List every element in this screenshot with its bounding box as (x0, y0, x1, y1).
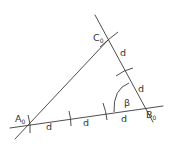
label-b0: B0 (146, 109, 157, 121)
label-side-d-1: d (120, 47, 126, 58)
label-a0: A0 (15, 113, 26, 125)
label-beta: β (124, 97, 130, 108)
label-base-d-1: d (46, 121, 52, 132)
tick-base-1 (69, 111, 71, 126)
label-c0: C0 (93, 32, 104, 44)
label-base-d-3: d (121, 113, 127, 124)
triangle-construction-diagram: A0 C0 B0 β d d d d d (0, 0, 172, 146)
label-side-d-2: d (138, 83, 144, 94)
tick-base-2 (103, 103, 107, 120)
label-base-d-2: d (83, 117, 89, 128)
line-a0-c0 (15, 39, 109, 139)
